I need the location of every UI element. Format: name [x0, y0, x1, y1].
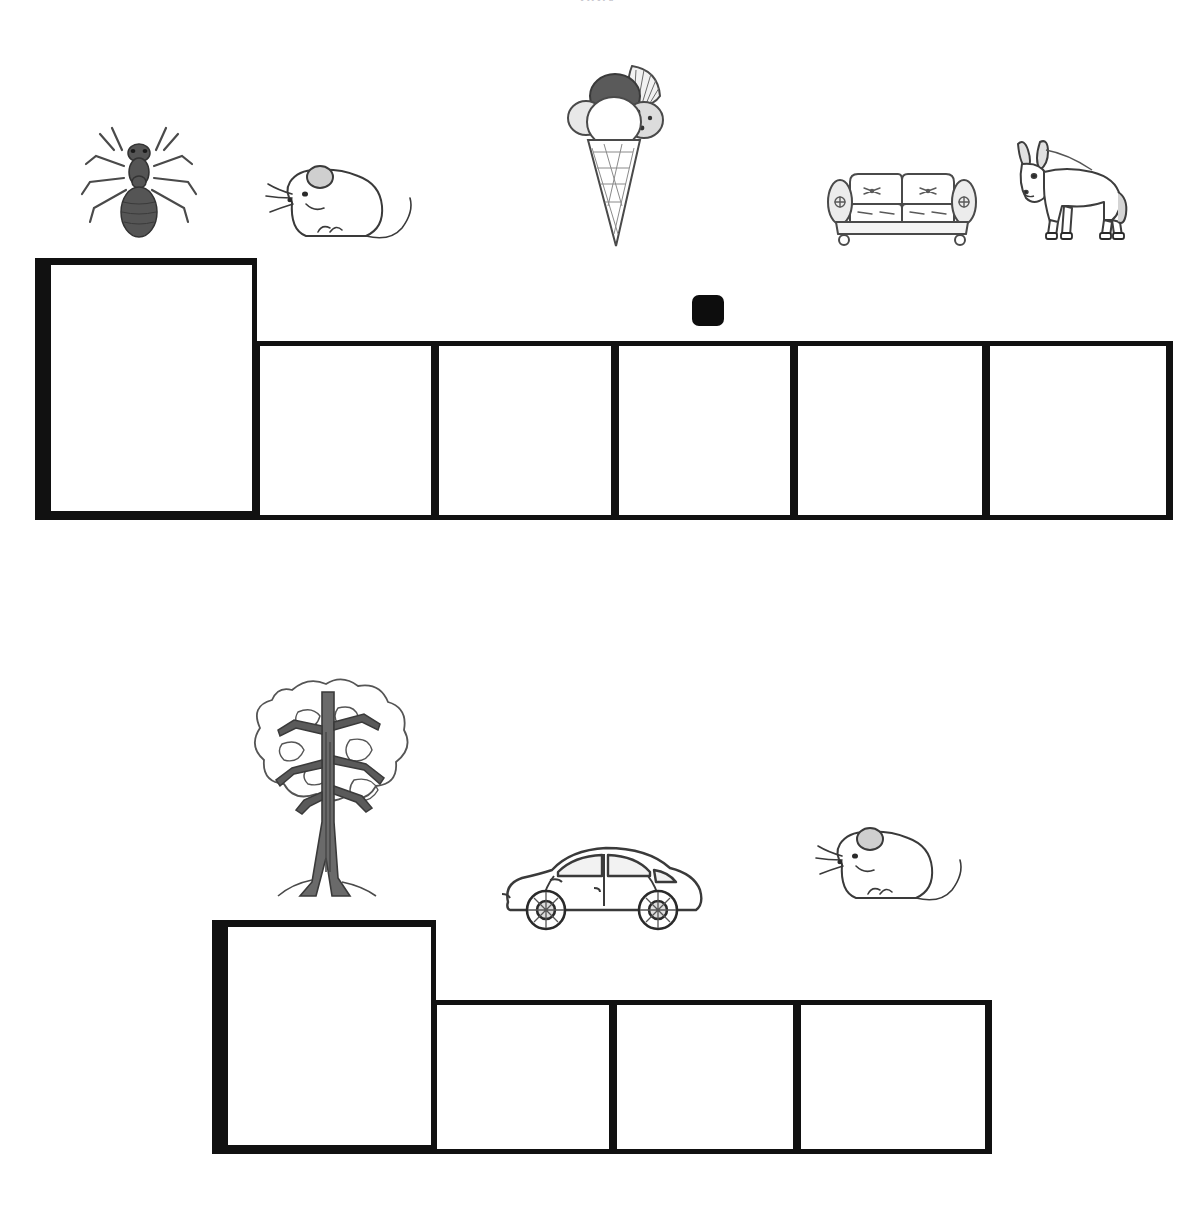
row-2-answer-box-1[interactable] — [212, 920, 436, 1154]
picture-car — [498, 840, 710, 932]
row-2-answer-box-4[interactable] — [796, 1000, 992, 1154]
row-2-answer-box-2[interactable] — [432, 1000, 614, 1154]
picture-tree — [238, 672, 420, 904]
row-2-group — [0, 0, 1196, 1229]
picture-mouse — [812, 812, 972, 920]
row-2-answer-box-3[interactable] — [612, 1000, 798, 1154]
worksheet-page: pgjy — [0, 0, 1196, 1229]
